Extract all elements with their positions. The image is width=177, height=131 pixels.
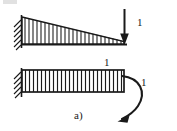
figure-container: 1 1 1 a) [0, 0, 177, 131]
load-diagram-svg [0, 0, 177, 131]
label-top-point-load: 1 [137, 17, 143, 28]
fixed-support-top [14, 15, 22, 50]
case-top-cantilever-triangular-load [14, 9, 129, 50]
label-bottom-moment: 1 [141, 77, 147, 88]
fixed-support-bottom [14, 68, 22, 98]
point-load-arrow-top [120, 9, 129, 45]
figure-caption: a) [74, 110, 83, 121]
label-bottom-distributed-load: 1 [104, 57, 110, 68]
